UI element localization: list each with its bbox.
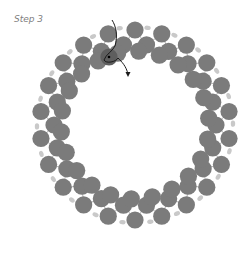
bead-hole-dot [108,56,111,59]
bead [75,36,92,53]
bead [40,156,57,173]
bead [178,196,195,213]
bead [54,102,71,119]
seed-bead [144,25,151,30]
bead [53,123,70,140]
bead [61,82,78,99]
seed-bead [226,92,232,99]
seed-bead [48,69,55,77]
seed-bead [194,46,202,53]
bead [58,144,75,161]
bead [199,131,216,148]
bead [163,181,180,198]
seed-bead [196,194,204,202]
bead [40,77,57,94]
bead [195,89,212,106]
seed-bead [66,48,74,56]
bead [126,21,143,38]
seed-bead [116,26,123,31]
bead [130,42,147,59]
bead [55,54,72,71]
bead [185,71,202,88]
bead [213,156,230,173]
seed-bead [35,123,39,129]
bead [153,25,170,42]
seed-bead [215,173,222,181]
bead [144,188,161,205]
bead [32,103,49,120]
bead [192,150,209,167]
bead [32,130,49,147]
bead [75,196,92,213]
bead [55,179,72,196]
bead [102,186,119,203]
bead [126,211,143,228]
bead [200,110,217,127]
seed-bead [38,150,44,157]
bead [100,208,117,225]
bead [178,36,195,53]
bead [198,54,215,71]
bead [213,77,230,94]
bead [73,65,90,82]
seed-bead [119,220,126,225]
seed-bead [89,33,97,40]
seed-bead [92,211,100,218]
seed-bead [171,32,179,39]
bead [151,47,168,64]
seed-bead [231,120,235,126]
seed-bead [173,210,181,217]
seed-bead [226,148,232,155]
seed-bead [213,67,220,75]
arrowhead-icon [126,72,131,77]
bead [180,168,197,185]
bead [68,162,85,179]
bead [220,103,237,120]
seed-bead [147,219,154,224]
bead [123,190,140,207]
bead [220,130,237,147]
bead [100,25,117,42]
seed-bead [50,175,57,183]
bead [153,208,170,225]
bead [198,179,215,196]
bead [169,56,186,73]
seed-bead [38,95,44,102]
bead [83,177,100,194]
seed-bead [68,196,76,203]
bead-ring-diagram [0,0,250,258]
